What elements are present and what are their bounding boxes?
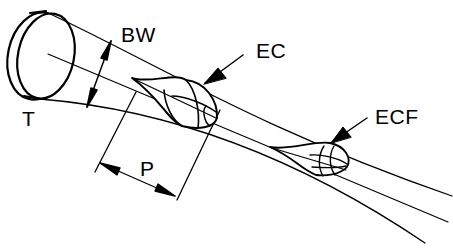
echo-chamber-far-shape: [270, 142, 349, 176]
label-beam-width: BW: [121, 24, 156, 45]
label-echo-chamber-far: ECF: [375, 106, 419, 127]
beam-axis: [48, 54, 448, 222]
ec-pointer-arrow: [204, 55, 243, 84]
label-transducer: T: [22, 108, 35, 129]
echo-chamber-shape: [132, 77, 217, 128]
diagram-canvas: T BW EC ECF P: [0, 0, 453, 248]
beam-width-arrow: [87, 41, 111, 107]
label-echo-chamber: EC: [256, 40, 286, 61]
transducer-disc: [0, 7, 82, 106]
ecf-pointer-arrow: [331, 118, 367, 143]
label-pulse-length: P: [140, 158, 155, 179]
